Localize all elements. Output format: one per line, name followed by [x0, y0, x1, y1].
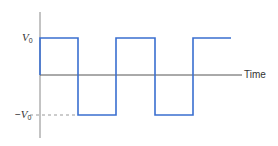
neg-v0-symbol: V	[21, 108, 28, 120]
square-wave	[40, 38, 231, 115]
v0-symbol: V	[22, 31, 29, 43]
v0-subscript: 0	[29, 37, 33, 44]
neg-v0-subscript: 0	[28, 114, 32, 121]
neg-v0-label: −V0	[15, 109, 31, 121]
v0-label: V0	[22, 32, 33, 44]
square-wave-diagram	[0, 0, 278, 146]
time-axis-label: Time	[244, 70, 266, 80]
